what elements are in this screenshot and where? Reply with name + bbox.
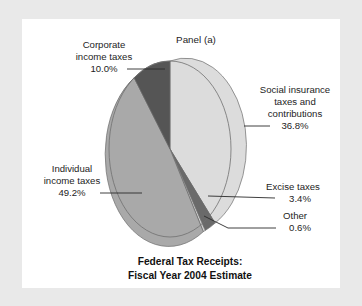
corporate-label-line1: Corporate [83,39,126,50]
social-label-line3: contributions [268,108,323,119]
callout-social-insurance: Social insurance taxes and contributions… [244,84,330,131]
other-label-line1: Other [283,210,308,221]
caption-line2: Fiscal Year 2004 Estimate [128,270,252,281]
individual-label-line1: Individual [52,163,93,174]
pie-chart: Panel (a) Corporate income taxes 10.0% S… [0,0,362,306]
social-label-pct: 36.8% [281,120,309,131]
panel-title: Panel (a) [176,34,216,45]
callout-corporate-income-taxes: Corporate income taxes 10.0% [76,39,165,74]
pie-face [105,58,246,246]
social-label-line1: Social insurance [260,84,330,95]
other-label-pct: 0.6% [289,222,311,233]
social-label-line2: taxes and [274,96,316,107]
corporate-label-pct: 10.0% [90,63,118,74]
corporate-label-line2: income taxes [76,51,133,62]
caption-line1: Federal Tax Receipts: [138,256,243,267]
excise-label-line1: Excise taxes [266,181,320,192]
individual-label-pct: 49.2% [58,187,86,198]
excise-label-pct: 3.4% [289,193,311,204]
individual-label-line2: income taxes [44,175,101,186]
chart-caption: Federal Tax Receipts: Fiscal Year 2004 E… [128,256,252,281]
figure-background: Panel (a) Corporate income taxes 10.0% S… [0,0,362,306]
